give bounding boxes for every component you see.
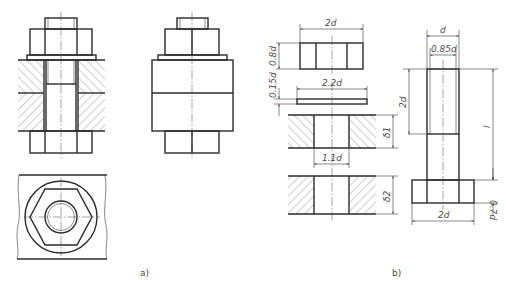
svg-text:δ1: δ1	[382, 127, 392, 138]
svg-text:2d: 2d	[325, 18, 337, 28]
svg-text:0.15d: 0.15d	[268, 72, 278, 98]
upper-plate-right-hatch	[78, 60, 105, 93]
washer	[27, 55, 96, 60]
plates	[152, 60, 233, 131]
section-view	[18, 12, 105, 158]
svg-text:2d: 2d	[438, 210, 450, 220]
upper-plate-left-hatch	[18, 60, 44, 93]
svg-text:0.85d: 0.85d	[431, 44, 457, 54]
lower-plate-left-hatch	[18, 93, 44, 131]
washer	[158, 55, 227, 60]
plan-view	[17, 175, 107, 259]
plate2-proportions: δ2	[288, 176, 398, 214]
washer-proportions: 2.2d 0.15d	[268, 72, 367, 116]
svg-text:2d: 2d	[398, 96, 408, 108]
lower-plate-right-hatch	[78, 93, 105, 131]
svg-text:0.7d: 0.7d	[488, 200, 498, 220]
elevation-view	[152, 12, 233, 158]
caption-a: a)	[140, 268, 149, 278]
hole-dimension: 1.1d	[314, 148, 349, 168]
bolt-joint-drawing: a) 2d 0.8d 2.2d 0.15d	[0, 0, 506, 290]
svg-text:1.1d: 1.1d	[322, 153, 342, 163]
nut-proportions: 2d 0.8d	[268, 18, 363, 74]
svg-text:0.8d: 0.8d	[268, 46, 278, 66]
svg-text:l: l	[482, 125, 492, 128]
svg-text:δ2: δ2	[382, 190, 392, 202]
bolt-proportions: d 0.85d 2d l 0.7d 2d	[398, 25, 498, 225]
caption-b: b)	[392, 268, 401, 278]
svg-text:d: d	[440, 25, 446, 35]
